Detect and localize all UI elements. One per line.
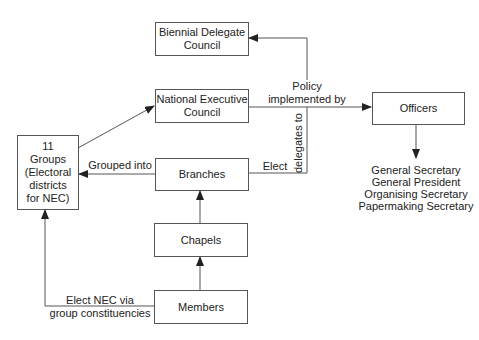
edge-policy-to-biennial [249, 38, 307, 82]
node-branches: Branches [155, 158, 249, 191]
node-biennial-delegate-council: Biennial Delegate Council [155, 22, 249, 56]
label-policy-implemented-by: Policy implemented by [262, 80, 352, 106]
node-groups: 11 Groups (Electoral districts for NEC) [17, 135, 79, 210]
node-national-executive-council: National Executive Council [155, 89, 249, 123]
officer-role: General President [356, 176, 476, 188]
officer-role: Papermaking Secretary [356, 200, 476, 212]
label-elect: Elect [260, 160, 290, 173]
edge-members-to-groups [45, 210, 154, 306]
node-members: Members [154, 290, 248, 324]
label-delegates-to: delegates to [292, 113, 305, 173]
officer-role: Organising Secretary [356, 188, 476, 200]
label-elect-nec-via-group-constituencies: Elect NEC via group constituencies [45, 294, 155, 320]
label-grouped-into: Grouped into [88, 159, 152, 172]
officer-roles-list: General Secretary General President Orga… [356, 164, 476, 212]
node-chapels: Chapels [154, 223, 248, 257]
edge-groups-to-nec [78, 106, 154, 148]
node-officers: Officers [372, 92, 465, 125]
officer-role: General Secretary [356, 164, 476, 176]
